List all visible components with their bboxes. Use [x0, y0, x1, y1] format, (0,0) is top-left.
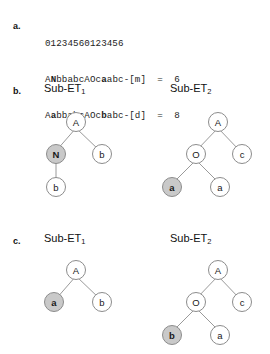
tree-b-sub-et-1: A N b b: [38, 106, 124, 198]
node-c2-o-label: O: [192, 297, 199, 308]
index-ruler: 01234560123456: [45, 38, 180, 50]
node-b1-n-label: N: [53, 149, 60, 160]
section-label-c: c.: [13, 236, 21, 246]
node-b2-a1-label: a: [169, 182, 175, 193]
node-c2-root-label: A: [215, 265, 222, 276]
node-b2-o-label: O: [192, 149, 199, 160]
caption-c-sub-et-1: Sub-ET1: [44, 232, 85, 244]
caption-b-sub-et-1: Sub-ET1: [44, 82, 85, 94]
node-b2-root-label: A: [215, 117, 222, 128]
caption-c2-main: Sub-ET: [170, 232, 207, 244]
caption-b1-main: Sub-ET: [44, 82, 81, 94]
caption-b-sub-et-2: Sub-ET2: [170, 82, 211, 94]
figure-root: a. 01234560123456 ANbbabcAOcaabc-[m] = 6…: [0, 0, 270, 354]
seg-plain-3: abc-[m] = 6: [107, 74, 180, 85]
node-c2-b-label: b: [169, 330, 175, 341]
node-c1-a-label: a: [51, 297, 57, 308]
caption-c2-sub: 2: [207, 237, 211, 246]
caption-c1-sub: 1: [81, 237, 85, 246]
tree-b-sub-et-2: A O c a a: [152, 106, 256, 198]
caption-c1-main: Sub-ET: [44, 232, 81, 244]
node-c2-a-label: a: [217, 330, 223, 341]
section-label-a: a.: [13, 21, 21, 31]
node-c1-b-label: b: [99, 297, 104, 308]
section-label-b: b.: [13, 86, 21, 96]
caption-b2-sub: 2: [207, 87, 211, 96]
node-b2-c-label: c: [240, 149, 245, 160]
node-c2-c-label: c: [240, 297, 245, 308]
node-b2-a2-label: a: [217, 182, 223, 193]
node-c1-root-label: A: [73, 265, 80, 276]
node-b1-root-label: A: [73, 117, 80, 128]
tree-c-sub-et-2: A O c b a: [152, 254, 256, 346]
caption-c-sub-et-2: Sub-ET2: [170, 232, 211, 244]
tree-c-sub-et-1: A a b: [38, 254, 124, 314]
node-b1-b2-label: b: [53, 182, 58, 193]
caption-b1-sub: 1: [81, 87, 85, 96]
node-b1-b1-label: b: [99, 149, 104, 160]
caption-b2-main: Sub-ET: [170, 82, 207, 94]
